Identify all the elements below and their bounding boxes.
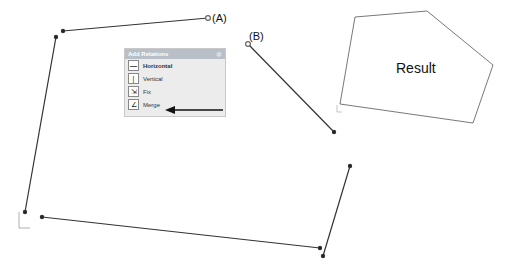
relation-vertical[interactable]: | Vertical — [125, 72, 225, 85]
relation-label: Fix — [143, 89, 151, 95]
panel-title: Add Relations — [128, 51, 168, 57]
relation-fix[interactable]: ⇲ Fix — [125, 85, 225, 98]
origin-icon — [19, 212, 30, 228]
segment-right[interactable] — [323, 166, 350, 256]
segment-left[interactable] — [25, 37, 56, 212]
pin-icon[interactable]: ✱ — [216, 50, 222, 60]
origin-mark-result — [337, 105, 342, 112]
endpoint-b[interactable] — [246, 42, 251, 47]
relation-label: Merge — [143, 102, 160, 108]
horizontal-icon: — — [128, 60, 139, 71]
segment-bottom[interactable] — [42, 217, 320, 248]
relation-label: Horizontal — [143, 63, 172, 69]
label-a: (A) — [212, 12, 227, 24]
segment-top[interactable] — [63, 18, 208, 31]
segment-b[interactable] — [248, 44, 334, 132]
result-label: Result — [396, 60, 436, 76]
vertical-icon: | — [128, 73, 139, 84]
label-b: (B) — [249, 30, 264, 42]
merge-icon: ∠ — [128, 99, 139, 110]
arrow-pointer-icon — [165, 105, 225, 115]
relation-horizontal[interactable]: — Horizontal — [125, 59, 225, 72]
panel-header: Add Relations ✱ — [125, 49, 225, 59]
fix-icon: ⇲ — [128, 86, 139, 97]
endpoint-a[interactable] — [206, 16, 211, 21]
relation-label: Vertical — [143, 76, 163, 82]
